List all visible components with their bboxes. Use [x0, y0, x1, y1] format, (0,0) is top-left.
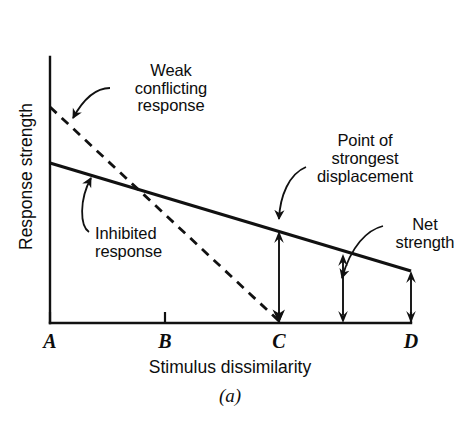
series-weak-conflicting-response-dashed-line [50, 107, 279, 321]
annotation-weak-conflicting-response: Weak conflicting response [135, 61, 207, 114]
figure-caption: (a) [219, 385, 241, 407]
measurement-arrows-group [274, 231, 416, 323]
annotation-point-line3: displacement [317, 167, 414, 185]
x-tick-label-c: C [272, 330, 286, 352]
annotation-inhibited-line2: response [95, 242, 162, 260]
annotation-point-line2: strongest [332, 149, 399, 167]
callout-leader-point-strongest [279, 167, 306, 219]
annotation-net-line1: Net [412, 215, 438, 233]
annotation-weak-line2: conflicting [135, 79, 207, 97]
annotation-net-line2: strength [396, 233, 455, 251]
annotation-inhibited-response: Inhibited response [95, 224, 162, 260]
axes-group [50, 57, 411, 323]
callout-leader-weak-conflicting [73, 88, 110, 118]
annotation-net-strength: Net strength [396, 215, 455, 251]
x-tick-label-a: A [41, 330, 56, 352]
x-tick-label-d: D [403, 330, 418, 352]
response-strength-chart: Response strength Stimulus dissimilarity… [0, 0, 467, 426]
labels-group: Response strength Stimulus dissimilarity… [16, 61, 454, 407]
annotation-point-of-strongest-displacement: Point of strongest displacement [317, 131, 414, 185]
callout-leader-inhibited-response [82, 178, 91, 232]
x-tick-label-b: B [157, 330, 171, 352]
annotation-weak-line1: Weak [150, 61, 192, 79]
y-axis-title: Response strength [16, 103, 36, 250]
annotation-weak-line3: response [137, 96, 204, 114]
annotation-point-line1: Point of [337, 131, 393, 149]
arrow-point-of-strongest-displacement [274, 231, 284, 323]
annotation-inhibited-line1: Inhibited [95, 224, 156, 242]
x-axis-title: Stimulus dissimilarity [149, 357, 312, 377]
figure-container: Response strength Stimulus dissimilarity… [0, 0, 467, 426]
